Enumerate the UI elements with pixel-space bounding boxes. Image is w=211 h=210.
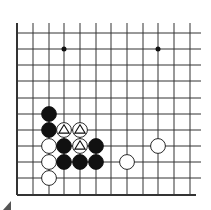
white-stone (42, 171, 57, 186)
white-stone (57, 123, 72, 138)
black-stone (42, 123, 57, 138)
corner-triangle-icon (3, 201, 11, 210)
star-point-icon (156, 47, 161, 52)
black-stone (73, 155, 88, 170)
black-stone (89, 139, 104, 154)
white-stone (73, 123, 88, 138)
black-stone (57, 139, 72, 154)
white-stone (42, 139, 57, 154)
go-board (0, 0, 211, 210)
white-stone (120, 155, 135, 170)
white-stone (73, 139, 88, 154)
black-stone (89, 155, 104, 170)
white-stone (151, 139, 166, 154)
black-stone (57, 155, 72, 170)
black-stone (42, 107, 57, 122)
white-stone (42, 155, 57, 170)
star-point-icon (62, 47, 67, 52)
